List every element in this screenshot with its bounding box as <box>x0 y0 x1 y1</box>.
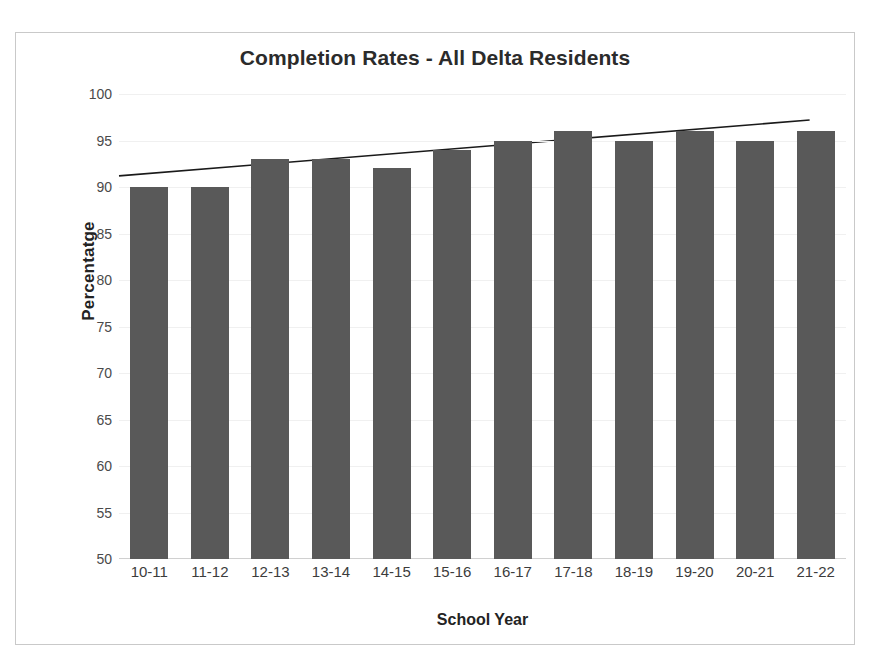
bar <box>433 150 471 559</box>
x-axis-tick-label: 12-13 <box>251 563 289 580</box>
x-axis-tick-label: 11-12 <box>191 563 228 580</box>
x-axis-tick-label: 10-11 <box>131 563 168 580</box>
bar <box>312 159 350 559</box>
chart-screenshot: Completion Rates - All Delta Residents P… <box>0 0 871 663</box>
bar <box>130 187 168 559</box>
x-axis-tick-label: 19-20 <box>675 563 713 580</box>
y-axis-tick-label: 75 <box>72 319 112 335</box>
y-axis-tick-label: 95 <box>72 133 112 149</box>
chart-frame: Completion Rates - All Delta Residents P… <box>15 32 855 645</box>
y-axis-tick-label: 55 <box>72 505 112 521</box>
bar <box>191 187 229 559</box>
y-axis-tick-label: 50 <box>72 551 112 567</box>
x-axis-tick-label: 17-18 <box>554 563 592 580</box>
y-axis-tick-label: 100 <box>72 86 112 102</box>
bar <box>615 141 653 560</box>
y-axis-tick-label: 60 <box>72 458 112 474</box>
x-axis-tick-label: 15-16 <box>433 563 471 580</box>
x-axis-tick-labels: 10-1111-1212-1313-1414-1515-1616-1717-18… <box>119 563 846 591</box>
bar <box>373 168 411 559</box>
x-axis-tick-label: 20-21 <box>736 563 774 580</box>
y-axis-tick-label: 85 <box>72 226 112 242</box>
y-axis-tick-label: 90 <box>72 179 112 195</box>
y-axis-tick-labels: 10095908580757065605550 <box>64 94 112 559</box>
bar <box>797 131 835 559</box>
bar <box>251 159 289 559</box>
chart-title: Completion Rates - All Delta Residents <box>16 46 854 70</box>
bar <box>736 141 774 560</box>
plot-area <box>119 94 846 559</box>
bar <box>554 131 592 559</box>
y-axis-tick-label: 80 <box>72 272 112 288</box>
x-axis-tick-label: 13-14 <box>312 563 350 580</box>
x-axis-tick-label: 18-19 <box>615 563 653 580</box>
x-axis-tick-label: 16-17 <box>494 563 532 580</box>
y-axis-tick-label: 65 <box>72 412 112 428</box>
bar <box>494 141 532 560</box>
x-axis-title: School Year <box>119 611 846 629</box>
x-axis-tick-label: 14-15 <box>372 563 410 580</box>
x-axis-tick-label: 21-22 <box>797 563 835 580</box>
gridline <box>119 94 846 95</box>
bar <box>676 131 714 559</box>
y-axis-tick-label: 70 <box>72 365 112 381</box>
